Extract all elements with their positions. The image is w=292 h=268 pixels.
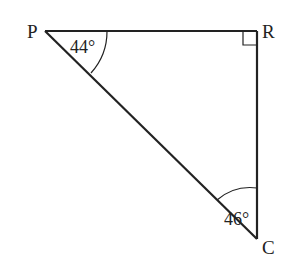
right-angle-marker [243, 31, 257, 45]
angle-label-c: 46° [224, 209, 249, 229]
vertex-label-r: R [262, 21, 275, 42]
side-pc [45, 31, 257, 239]
vertex-label-c: C [262, 237, 275, 258]
vertex-label-p: P [27, 21, 38, 42]
angle-label-p: 44° [70, 37, 95, 57]
triangle-diagram: P R C 44° 46° [0, 0, 292, 268]
angle-arc-c [217, 188, 257, 200]
